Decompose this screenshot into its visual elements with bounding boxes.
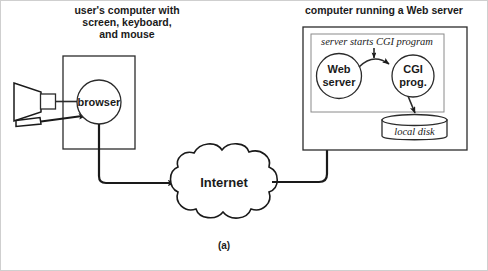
- local-disk-top: [382, 115, 447, 126]
- left-title-line2: screen, keyboard,: [82, 16, 171, 28]
- monitor-base-icon: [41, 94, 56, 109]
- monitor-icon: [14, 83, 41, 121]
- figure-canvas: user's computer with screen, keyboard, a…: [0, 0, 488, 271]
- local-disk-label: local disk: [394, 126, 435, 137]
- cgi-node-label-2: prog.: [399, 76, 427, 88]
- internet-cloud-label: Internet: [200, 175, 248, 190]
- figure-caption: (a): [218, 240, 230, 251]
- webserver-node-label-2: server: [322, 76, 356, 88]
- left-title-line1: user's computer with: [74, 4, 179, 16]
- browser-node-label: browser: [78, 96, 122, 108]
- right-title: computer running a Web server: [305, 4, 463, 16]
- webserver-node-label-1: Web: [327, 63, 350, 75]
- cgi-annotation: server starts CGI program: [321, 36, 433, 47]
- cgi-node-label-1: CGI: [403, 63, 423, 75]
- left-title-line3: and mouse: [99, 28, 155, 40]
- network-cgi-diagram: user's computer with screen, keyboard, a…: [0, 0, 488, 271]
